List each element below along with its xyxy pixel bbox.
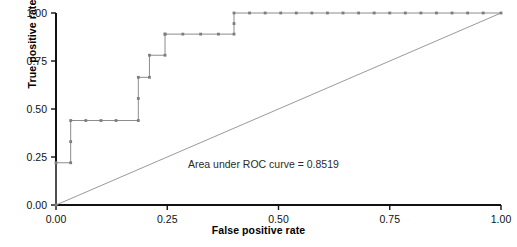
data-point-marker [115,119,118,122]
data-point-marker [148,76,151,79]
data-point-marker [100,119,103,122]
data-point-marker [420,12,423,15]
data-point-marker [482,12,485,15]
data-point-marker [137,76,140,79]
data-point-marker [217,33,220,36]
data-point-marker [55,161,58,164]
data-point-marker [69,161,72,164]
y-tick-label: 0.50 [27,103,48,115]
data-point-marker [451,12,454,15]
data-point-marker [233,33,236,36]
data-point-marker [388,12,391,15]
data-point-marker [435,12,438,15]
data-point-marker [264,12,267,15]
data-point-marker [137,119,140,122]
data-point-marker [148,54,151,57]
data-point-marker [310,12,313,15]
roc-chart-figure: 0.000.250.500.751.00 0.000.250.500.751.0… [0,0,517,247]
data-point-marker [233,22,236,25]
x-axis-title: False positive rate [0,224,517,236]
data-point-marker [69,119,72,122]
data-point-marker [181,33,184,36]
data-point-marker [373,12,376,15]
data-point-marker [84,119,87,122]
data-point-marker [137,97,140,100]
y-tick-label: 0.25 [27,151,48,163]
y-tick-label: 0.00 [27,199,48,211]
data-point-marker [199,33,202,36]
data-point-marker [326,12,329,15]
data-point-marker [295,12,298,15]
data-point-marker [248,12,251,15]
data-point-marker [466,12,469,15]
data-point-marker [342,12,345,15]
data-point-marker [500,12,503,15]
auc-annotation: Area under ROC curve = 0.8519 [188,158,339,170]
data-point-marker [164,54,167,57]
data-point-marker [357,12,360,15]
data-point-marker [279,12,282,15]
data-point-marker [233,12,236,15]
data-point-marker [69,140,72,143]
y-axis-title: True positive rate [26,0,38,104]
data-point-marker [404,12,407,15]
plot-area: 0.000.250.500.751.00 0.000.250.500.751.0… [0,0,517,247]
data-point-marker [55,204,58,207]
data-point-marker [164,33,167,36]
reference-diagonal-line [56,13,501,205]
